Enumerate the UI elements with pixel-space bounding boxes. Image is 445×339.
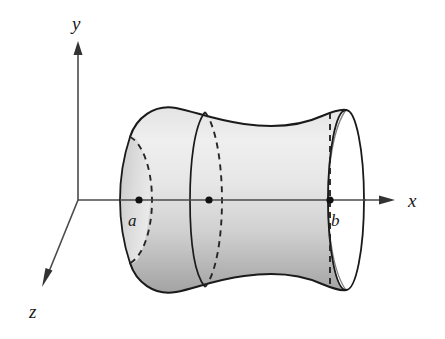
point-a-label: a [128, 211, 137, 230]
z-axis-arrowhead [42, 268, 53, 287]
x-axis-label: x [407, 190, 417, 211]
y-axis-label: y [70, 13, 81, 34]
point-b-label: b [331, 211, 340, 230]
z-axis-line [48, 200, 78, 274]
solid-of-revolution-diagram: y z x [0, 0, 445, 339]
y-axis-arrowhead [74, 41, 83, 55]
point-mid-dot [205, 196, 212, 203]
z-axis-label: z [28, 301, 37, 322]
x-axis-arrowhead [379, 196, 395, 205]
y-axis: y [70, 13, 83, 200]
z-axis: z [28, 200, 78, 322]
figure-canvas: y z x [0, 0, 445, 339]
point-b-dot [326, 196, 333, 203]
point-a-dot [135, 196, 142, 203]
